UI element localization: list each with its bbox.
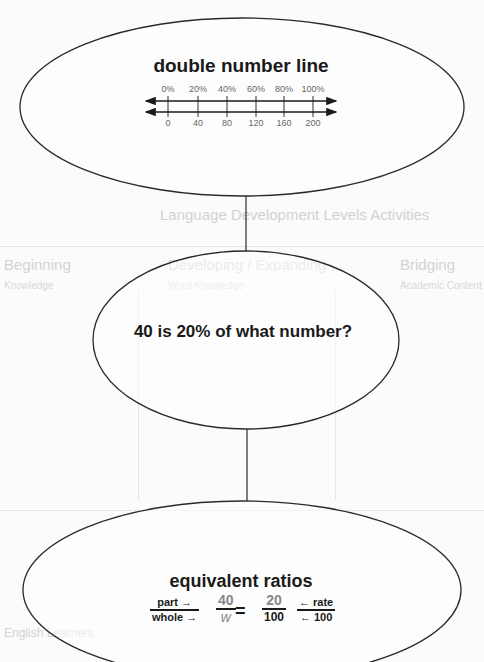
legend-left-fraction: part → whole → — [150, 596, 199, 624]
number-label-40: 40 — [193, 118, 203, 128]
number-label-160: 160 — [276, 118, 291, 128]
bottom-node-title: equivalent ratios — [0, 571, 483, 592]
legend-100-label: ← 100 — [298, 611, 334, 624]
number-label-0: 0 — [165, 118, 170, 128]
unknown-fraction-denominator: w — [219, 610, 233, 625]
legend-right-fraction: ← rate ← 100 — [297, 596, 335, 624]
percent-label-20: 20% — [189, 84, 207, 94]
top-node-title: double number line — [0, 55, 483, 77]
known-fraction: 20 100 — [262, 593, 286, 625]
percent-label-100: 100% — [301, 84, 324, 94]
percent-label-60: 60% — [247, 84, 265, 94]
number-label-200: 200 — [305, 118, 320, 128]
unknown-fraction: 40 w — [216, 593, 236, 625]
middle-node-title: 40 is 20% of what number? — [1, 322, 484, 342]
number-label-80: 80 — [222, 118, 232, 128]
percent-label-40: 40% — [218, 84, 236, 94]
legend-rate-label: ← rate — [297, 596, 335, 609]
legend-part-label: part → — [155, 596, 194, 609]
legend-whole-label: whole → — [150, 611, 199, 624]
unknown-fraction-numerator: 40 — [216, 593, 236, 608]
equals-sign: = — [235, 601, 246, 622]
percent-label-0: 0% — [161, 84, 174, 94]
top-node-ellipse — [20, 18, 464, 196]
number-label-120: 120 — [248, 118, 263, 128]
known-fraction-denominator: 100 — [262, 610, 286, 625]
percent-label-80: 80% — [275, 84, 293, 94]
known-fraction-numerator: 20 — [264, 593, 284, 608]
